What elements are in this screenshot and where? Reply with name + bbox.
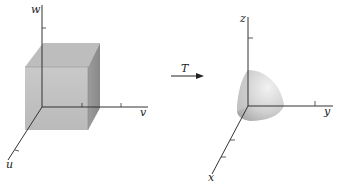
transform-arrow: T bbox=[171, 62, 204, 79]
xyz-range: z y x bbox=[208, 12, 333, 183]
transformation-diagram: w v u T z y x bbox=[0, 0, 338, 183]
cube-top-face bbox=[25, 43, 100, 67]
v-axis-label: v bbox=[140, 106, 147, 119]
z-axis-label: z bbox=[239, 12, 246, 25]
x-axis-label: x bbox=[208, 171, 215, 183]
w-axis-label: w bbox=[31, 3, 41, 16]
u-axis-label: u bbox=[6, 158, 13, 171]
cube-front-face bbox=[25, 67, 88, 130]
u-axis-tick bbox=[15, 150, 19, 151]
transform-label: T bbox=[181, 62, 190, 75]
y-axis-label: y bbox=[323, 105, 331, 118]
uvw-domain: w v u bbox=[6, 3, 148, 171]
